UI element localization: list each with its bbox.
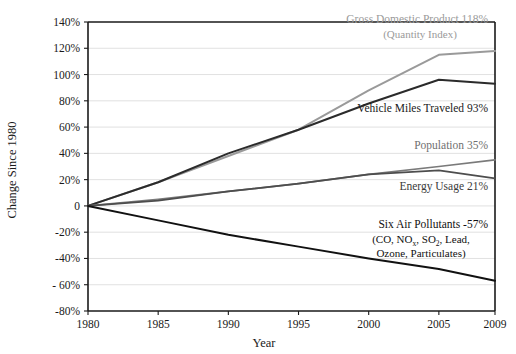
y-tick-label: -40% [55, 252, 80, 264]
y-tick-label: 40% [59, 147, 81, 159]
annotation-vehicle-miles: Vehicle Miles Traveled 93% [357, 102, 488, 114]
x-tick-label: 1980 [77, 318, 100, 330]
x-tick-label: 2000 [357, 318, 380, 330]
y-tick-labels: 140%120%100%80%60%40%20%0-20%-40%- 60%-8… [52, 16, 80, 317]
x-axis-title: Year [252, 336, 276, 350]
annotation-pollutants-formula2: Ozone, Particulates) [376, 247, 466, 260]
y-axis-title: Change Since 1980 [5, 121, 19, 218]
x-tick-label: 2005 [427, 318, 450, 330]
y-tick-label: 0 [74, 200, 80, 212]
annotation-energy-usage: Energy Usage 21% [399, 180, 488, 193]
y-tick-label: 60% [59, 121, 81, 133]
x-tick-label: 1995 [287, 318, 310, 330]
x-tick-label: 1990 [217, 318, 240, 330]
y-tick-label: 120% [53, 42, 80, 54]
y-tick-label: -80% [55, 305, 80, 317]
y-tick-label: 140% [53, 16, 80, 28]
chart-container: 140%120%100%80%60%40%20%0-20%-40%- 60%-8… [0, 0, 516, 354]
annotation-pollutants: Six Air Pollutants -57% [378, 218, 488, 230]
annotation-gdp-sublabel: (Quantity Index) [383, 28, 457, 41]
y-tick-label: 20% [59, 174, 81, 186]
axis-ticks [84, 22, 495, 315]
y-tick-label: 80% [59, 95, 81, 107]
annotation-population: Population 35% [414, 139, 488, 152]
x-tick-label: 1985 [147, 318, 170, 330]
y-tick-label: 100% [53, 69, 80, 81]
y-tick-label: - 60% [52, 279, 80, 291]
annotation-pollutants-formula: (CO, NOx, SO2, Lead, [372, 233, 470, 248]
x-tick-labels: 1980198519901995200020052009 [77, 318, 507, 330]
line-chart: 140%120%100%80%60%40%20%0-20%-40%- 60%-8… [0, 0, 516, 354]
annotation-gdp: Gross Domestic Product 118% [346, 13, 488, 25]
x-tick-label: 2009 [484, 318, 507, 330]
y-tick-label: -20% [55, 226, 80, 238]
